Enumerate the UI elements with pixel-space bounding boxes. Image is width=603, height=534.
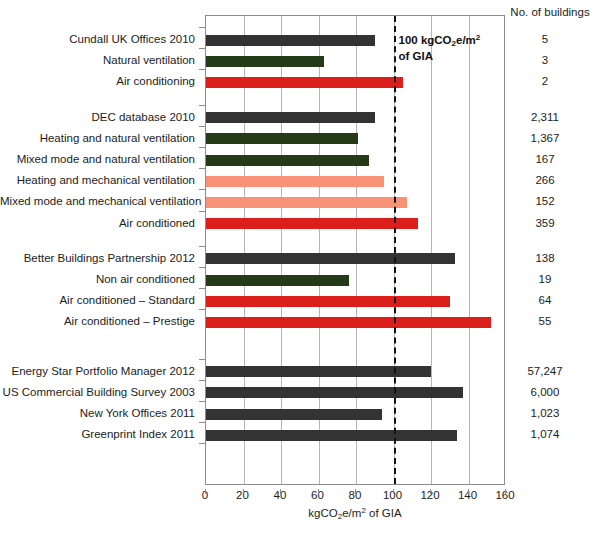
building-count: 152 [485, 195, 603, 207]
building-count: 19 [485, 273, 603, 285]
y-tick-mark [199, 443, 205, 444]
x-tick-mark-60 [318, 489, 319, 494]
bar [206, 197, 407, 208]
y-tick-mark [199, 309, 205, 310]
bar [206, 253, 455, 264]
bar [206, 176, 384, 187]
y-tick-mark [199, 246, 205, 247]
y-tick-mark [199, 147, 205, 148]
category-label: Heating and natural ventilation [0, 132, 195, 144]
building-count: 55 [485, 315, 603, 327]
category-label: Non air conditioned [0, 273, 195, 285]
threshold-dashed-line [394, 16, 396, 484]
y-tick-mark [199, 267, 205, 268]
bar [206, 77, 403, 88]
building-count: 57,247 [485, 365, 603, 377]
building-count: 359 [485, 217, 603, 229]
y-tick-mark [199, 105, 205, 106]
category-label: New York Offices 2011 [0, 407, 195, 419]
category-label: Greenprint Index 2011 [0, 428, 195, 440]
building-count: 6,000 [485, 386, 603, 398]
y-tick-mark [199, 288, 205, 289]
y-tick-mark [199, 27, 205, 28]
building-count: 266 [485, 174, 603, 186]
building-count: 167 [485, 153, 603, 165]
x-tick-mark-140 [468, 489, 469, 494]
bar [206, 112, 375, 123]
x-tick-mark-0 [205, 489, 206, 494]
bar-chart: No. of buildings Cundall UK Offices 2010… [0, 0, 603, 534]
y-tick-mark [199, 126, 205, 127]
building-count: 1,367 [485, 132, 603, 144]
category-label: Natural ventilation [0, 54, 195, 66]
building-count: 1,074 [485, 428, 603, 440]
y-tick-mark [199, 69, 205, 70]
y-tick-mark [199, 189, 205, 190]
y-tick-mark [199, 380, 205, 381]
plot-area [205, 15, 505, 485]
threshold-annotation: 100 kgCO2e/m2of GIA [399, 31, 481, 63]
y-tick-mark [199, 359, 205, 360]
x-tick-mark-40 [280, 489, 281, 494]
category-label: Air conditioned [0, 217, 195, 229]
bar [206, 133, 358, 144]
category-label: Air conditioning [0, 75, 195, 87]
building-count: 138 [485, 252, 603, 264]
category-label: Mixed mode and mechanical ventilation [0, 195, 195, 207]
category-label: Better Buildings Partnership 2012 [0, 252, 195, 264]
category-label: Cundall UK Offices 2010 [0, 33, 195, 45]
x-tick-mark-80 [355, 489, 356, 494]
bar [206, 430, 457, 441]
building-count: 5 [485, 33, 603, 45]
gridline-140 [469, 16, 470, 484]
category-label: US Commercial Building Survey 2003 [0, 386, 195, 398]
category-label: Energy Star Portfolio Manager 2012 [0, 365, 195, 377]
category-label: Heating and mechanical ventilation [0, 174, 195, 186]
y-tick-mark [199, 168, 205, 169]
bar [206, 296, 450, 307]
category-label: Air conditioned – Standard [0, 294, 195, 306]
bar [206, 275, 349, 286]
bar [206, 218, 418, 229]
bar [206, 155, 369, 166]
y-tick-mark [199, 48, 205, 49]
y-tick-mark [199, 401, 205, 402]
bar [206, 366, 431, 377]
category-label: Mixed mode and natural ventilation [0, 153, 195, 165]
gridline-120 [431, 16, 432, 484]
bar [206, 387, 463, 398]
bar [206, 317, 491, 328]
x-axis-title: kgCO2e/m2 of GIA [205, 506, 505, 521]
bar [206, 35, 375, 46]
x-tick-mark-100 [393, 489, 394, 494]
building-count: 2 [485, 75, 603, 87]
x-tick-mark-160 [505, 489, 506, 494]
bar [206, 56, 324, 67]
y-tick-mark [199, 422, 205, 423]
building-count: 64 [485, 294, 603, 306]
building-count: 1,023 [485, 407, 603, 419]
category-label: DEC database 2010 [0, 111, 195, 123]
building-count: 3 [485, 54, 603, 66]
category-label: Air conditioned – Prestige [0, 315, 195, 327]
bar [206, 409, 382, 420]
x-tick-mark-20 [243, 489, 244, 494]
x-tick-mark-120 [430, 489, 431, 494]
y-tick-mark [199, 211, 205, 212]
building-count: 2,311 [485, 111, 603, 123]
